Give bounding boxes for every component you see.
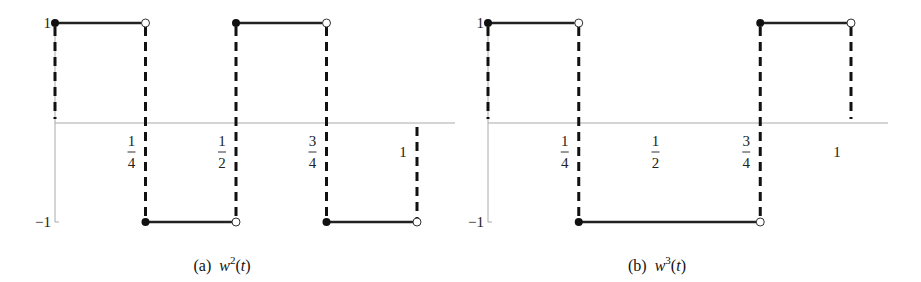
x-tick-numerator: 1 <box>128 133 136 149</box>
closed-endpoint-dot <box>484 19 492 27</box>
x-tick-numerator: 1 <box>652 133 660 149</box>
open-endpoint-dot <box>575 19 583 27</box>
chart-caption: (a) w2(t) <box>193 254 250 275</box>
closed-endpoint-dot <box>575 218 583 226</box>
closed-endpoint-dot <box>142 218 150 226</box>
x-tick-numerator: 3 <box>309 133 317 149</box>
y-tick-label: 1 <box>44 15 52 31</box>
x-tick-denominator: 2 <box>218 155 226 171</box>
open-endpoint-dot <box>413 218 421 226</box>
y-tick-label: −1 <box>35 214 51 230</box>
closed-endpoint-dot <box>232 19 240 27</box>
x-tick-denominator: 4 <box>561 155 569 171</box>
x-tick-numerator: 3 <box>743 133 751 149</box>
x-tick-numerator: 1 <box>561 133 569 149</box>
open-endpoint-dot <box>323 19 331 27</box>
x-tick-label: 1 <box>833 144 841 160</box>
open-endpoint-dot <box>232 218 240 226</box>
x-tick-label: 1 <box>399 144 407 160</box>
open-endpoint-dot <box>142 19 150 27</box>
figure: 1−11412341(a) w2(t) 1−11412341(b) w3(t) <box>0 0 921 282</box>
chart-caption: (b) w3(t) <box>628 254 686 275</box>
y-tick-label: −1 <box>468 214 484 230</box>
closed-endpoint-dot <box>756 19 764 27</box>
chart-w3: 1−11412341(b) w3(t) <box>468 15 888 275</box>
x-tick-numerator: 1 <box>218 133 226 149</box>
x-tick-denominator: 4 <box>309 155 317 171</box>
chart-w2: 1−11412341(a) w2(t) <box>35 15 455 275</box>
closed-endpoint-dot <box>323 218 331 226</box>
open-endpoint-dot <box>847 19 855 27</box>
x-tick-denominator: 4 <box>128 155 136 171</box>
open-endpoint-dot <box>756 218 764 226</box>
x-tick-denominator: 2 <box>652 155 660 171</box>
x-tick-denominator: 4 <box>743 155 751 171</box>
y-tick-label: 1 <box>477 15 485 31</box>
closed-endpoint-dot <box>51 19 59 27</box>
